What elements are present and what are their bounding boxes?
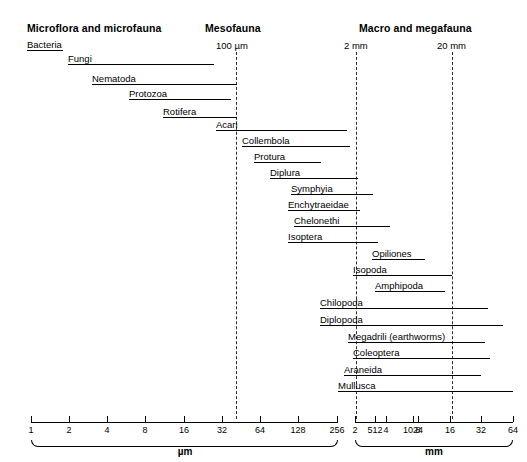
taxon-range-bar <box>254 162 321 163</box>
taxon-range-bar <box>288 210 360 211</box>
taxon-label: Symphyia <box>291 183 333 194</box>
axis-tick <box>450 416 451 422</box>
axis-tick-label: 32 <box>217 425 227 435</box>
boundary-marker-label: 100 µm <box>216 40 248 51</box>
taxon-range-bar <box>242 146 350 147</box>
taxon-range-bar <box>129 99 231 100</box>
axis-tick-label: 1 <box>28 425 33 435</box>
axis-tick-label: 16 <box>445 425 455 435</box>
axis-baseline <box>31 422 338 423</box>
axis-tick-label: 64 <box>508 425 518 435</box>
taxon-range-bar <box>92 84 237 85</box>
taxon-label: Araneida <box>344 364 382 375</box>
axis-tick-label: 512 <box>367 425 382 435</box>
axis-unit-label: µm <box>178 446 193 457</box>
taxon-label: Coleoptera <box>353 347 399 358</box>
taxon-range-bar <box>27 50 63 51</box>
taxon-range-bar <box>270 178 358 179</box>
taxon-label: Chilopoda <box>320 297 363 308</box>
taxon-label: Rotifera <box>163 106 196 117</box>
axis-tick-label: 2 <box>352 425 357 435</box>
taxon-label: Fungi <box>68 53 92 64</box>
axis-tick <box>145 416 146 422</box>
group-header: Mesofauna <box>205 22 261 34</box>
axis-tick <box>107 416 108 422</box>
axis-unit-label: mm <box>425 446 443 457</box>
taxon-label: Mullusca <box>338 380 376 391</box>
axis-tick <box>386 416 387 422</box>
axis-tick-label: 256 <box>329 425 344 435</box>
soil-fauna-size-chart: Microflora and microfaunaMesofaunaMacro … <box>0 0 527 462</box>
taxon-label: Protozoa <box>129 88 167 99</box>
axis-tick <box>184 416 185 422</box>
taxon-range-bar <box>294 226 390 227</box>
axis-tick <box>260 416 261 422</box>
taxon-label: Collembola <box>242 135 290 146</box>
taxon-range-bar <box>320 308 488 309</box>
taxon-range-bar <box>353 358 490 359</box>
axis-tick <box>418 416 419 422</box>
group-header: Macro and megafauna <box>359 22 472 34</box>
axis-tick-label: 4 <box>104 425 109 435</box>
axis-tick <box>69 416 70 422</box>
axis-tick-label: 2 <box>66 425 71 435</box>
axis-tick <box>31 416 32 422</box>
axis-tick-label: 16 <box>179 425 189 435</box>
taxon-label: Diplura <box>270 167 300 178</box>
taxon-label: Chelonethi <box>294 215 339 226</box>
taxon-label: Megadrili (earthworms) <box>348 331 445 342</box>
axis-tick <box>337 416 338 422</box>
taxon-label: Isoptera <box>288 231 322 242</box>
taxon-range-bar <box>348 342 485 343</box>
axis-tick-label: 8 <box>142 425 147 435</box>
axis-tick <box>355 416 356 422</box>
taxon-label: Bacteria <box>27 39 62 50</box>
taxon-label: Opiliones <box>372 248 412 259</box>
group-header: Microflora and microfauna <box>27 22 161 34</box>
taxon-label: Acari <box>216 119 238 130</box>
taxon-range-bar <box>291 194 373 195</box>
axis-tick <box>481 416 482 422</box>
taxon-label: Diplopoda <box>320 314 363 325</box>
axis-tick-label: 8 <box>415 425 420 435</box>
axis-tick-label: 4 <box>383 425 388 435</box>
taxon-label: Enchytraeidae <box>288 199 349 210</box>
taxon-label: Amphipoda <box>375 280 423 291</box>
taxon-range-bar <box>372 259 425 260</box>
axis-tick-label: 64 <box>255 425 265 435</box>
taxon-range-bar <box>163 117 237 118</box>
taxon-label: Nematoda <box>92 73 136 84</box>
taxon-range-bar <box>338 391 513 392</box>
taxon-range-bar <box>375 291 445 292</box>
axis-tick <box>513 416 514 422</box>
taxon-range-bar <box>344 375 481 376</box>
taxon-range-bar <box>288 242 378 243</box>
boundary-guide-line <box>452 52 453 419</box>
taxon-range-bar <box>68 64 214 65</box>
taxon-label: Isopoda <box>353 264 387 275</box>
taxon-range-bar <box>320 325 503 326</box>
axis-tick <box>298 416 299 422</box>
axis-baseline <box>355 422 513 423</box>
boundary-marker-label: 2 mm <box>344 40 368 51</box>
taxon-range-bar <box>216 130 347 131</box>
boundary-marker-label: 20 mm <box>437 40 466 51</box>
axis-tick-label: 128 <box>290 425 305 435</box>
taxon-range-bar <box>353 275 452 276</box>
taxon-label: Protura <box>254 151 285 162</box>
axis-tick-label: 32 <box>476 425 486 435</box>
boundary-guide-line <box>236 52 237 419</box>
axis-tick <box>222 416 223 422</box>
